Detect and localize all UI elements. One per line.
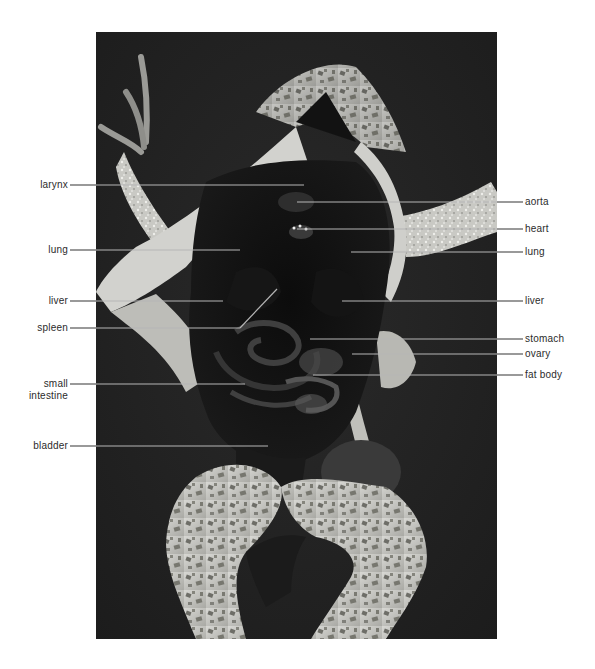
- label-liver-right: liver: [525, 295, 544, 307]
- label-lung-left: lung: [0, 244, 68, 256]
- label-text: heart: [525, 223, 549, 235]
- label-aorta: aorta: [525, 196, 549, 208]
- frog-dissection-figure: larynxlungliverspleensmallintestinebladd…: [0, 0, 595, 669]
- frog-dissection-photo: [96, 32, 497, 639]
- label-fat-body: fat body: [525, 369, 562, 381]
- label-bladder: bladder: [0, 440, 68, 452]
- label-text: aorta: [525, 196, 549, 208]
- label-lung-right: lung: [525, 246, 545, 258]
- label-text: stomach: [525, 333, 564, 345]
- label-text: lung: [0, 244, 68, 256]
- label-text: lung: [525, 246, 545, 258]
- label-ovary: ovary: [525, 348, 550, 360]
- label-text: spleen: [0, 322, 68, 334]
- label-text: fat body: [525, 369, 562, 381]
- label-text: small: [0, 378, 68, 390]
- label-spleen: spleen: [0, 322, 68, 334]
- label-text: liver: [525, 295, 544, 307]
- label-larynx: larynx: [0, 179, 68, 191]
- label-small-intestine: smallintestine: [0, 378, 68, 402]
- label-liver-left: liver: [0, 295, 68, 307]
- label-text: liver: [0, 295, 68, 307]
- label-text: bladder: [0, 440, 68, 452]
- label-text: ovary: [525, 348, 550, 360]
- label-text: intestine: [0, 390, 68, 402]
- label-heart: heart: [525, 223, 549, 235]
- label-stomach: stomach: [525, 333, 564, 345]
- label-text: larynx: [0, 179, 68, 191]
